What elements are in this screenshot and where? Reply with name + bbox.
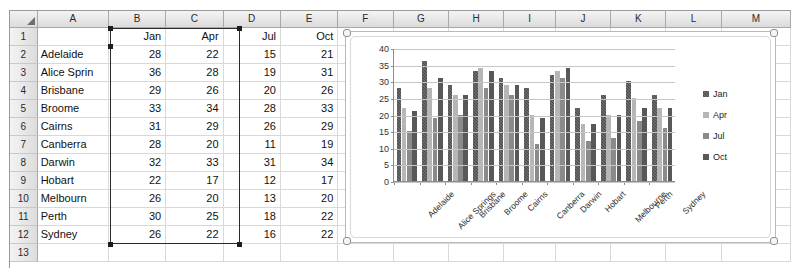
row-header-12[interactable]: 12: [10, 226, 38, 244]
cell-d[interactable]: 11: [224, 136, 281, 154]
chart-bar[interactable]: [427, 88, 432, 181]
embedded-bar-chart[interactable]: 0510152025303540 AdelaideAlice SpringsBr…: [345, 31, 776, 243]
row-header-10[interactable]: 10: [10, 190, 38, 208]
chart-bar[interactable]: [463, 95, 468, 181]
cell-d[interactable]: 15: [224, 46, 281, 64]
cell-d[interactable]: 12: [224, 172, 281, 190]
cell-b[interactable]: 28: [109, 136, 166, 154]
cell-d[interactable]: 18: [224, 208, 281, 226]
chart-handle-bottom-right[interactable]: [770, 237, 778, 245]
cell-a[interactable]: Hobart: [38, 172, 109, 190]
cell-d[interactable]: 19: [224, 64, 281, 82]
cell-d[interactable]: 13: [224, 190, 281, 208]
chart-bar[interactable]: [617, 115, 622, 182]
chart-bar[interactable]: [412, 111, 417, 181]
column-header-k[interactable]: K: [611, 11, 666, 28]
cell-empty[interactable]: [338, 244, 393, 262]
cell-a[interactable]: Brisbane: [38, 82, 109, 100]
column-header-l[interactable]: L: [666, 11, 721, 28]
cell-e[interactable]: 22: [281, 226, 338, 244]
cell-e[interactable]: 19: [281, 136, 338, 154]
cell-a[interactable]: Canberra: [38, 136, 109, 154]
column-header-g[interactable]: G: [394, 11, 449, 28]
cell-e[interactable]: 20: [281, 190, 338, 208]
chart-bar[interactable]: [632, 98, 637, 181]
column-header-f[interactable]: F: [338, 11, 393, 28]
cell-b[interactable]: 28: [109, 46, 166, 64]
chart-bar[interactable]: [642, 108, 647, 181]
cell-d[interactable]: 16: [224, 226, 281, 244]
cell-a[interactable]: Alice Sprin: [38, 64, 109, 82]
select-all-corner[interactable]: [10, 11, 38, 28]
cell-b[interactable]: 26: [109, 226, 166, 244]
cell-c[interactable]: 34: [166, 100, 223, 118]
cell-empty[interactable]: [666, 244, 721, 262]
selection-handle-top-left[interactable]: [108, 26, 113, 31]
column-header-d[interactable]: D: [224, 11, 281, 28]
cell-a[interactable]: Cairns: [38, 118, 109, 136]
column-header-c[interactable]: C: [166, 11, 223, 28]
chart-bar[interactable]: [668, 108, 673, 181]
chart-bar[interactable]: [402, 108, 407, 181]
cell-a[interactable]: Darwin: [38, 154, 109, 172]
row-header-4[interactable]: 4: [10, 82, 38, 100]
row-header-6[interactable]: 6: [10, 118, 38, 136]
cell-a[interactable]: Melbourn: [38, 190, 109, 208]
row-header-9[interactable]: 9: [10, 172, 38, 190]
cell-a[interactable]: Sydney: [38, 226, 109, 244]
cell-b[interactable]: Jan: [109, 28, 166, 46]
cell-b[interactable]: 29: [109, 82, 166, 100]
cell-d[interactable]: [224, 244, 281, 262]
column-header-e[interactable]: E: [281, 11, 338, 28]
cell-empty[interactable]: [449, 244, 504, 262]
cell-b[interactable]: 22: [109, 172, 166, 190]
chart-bar[interactable]: [611, 138, 616, 181]
cell-c[interactable]: Apr: [166, 28, 223, 46]
cell-c[interactable]: 22: [166, 46, 223, 64]
chart-bar[interactable]: [663, 128, 668, 181]
cell-e[interactable]: Oct: [281, 28, 338, 46]
row-header-3[interactable]: 3: [10, 64, 38, 82]
cell-e[interactable]: 29: [281, 118, 338, 136]
chart-bar[interactable]: [422, 61, 427, 181]
chart-bar[interactable]: [530, 115, 535, 182]
cell-b[interactable]: 32: [109, 154, 166, 172]
cell-a[interactable]: [38, 28, 109, 46]
row-header-13[interactable]: 13: [10, 244, 38, 262]
cell-e[interactable]: 31: [281, 64, 338, 82]
row-header-7[interactable]: 7: [10, 136, 38, 154]
cell-empty[interactable]: [504, 244, 555, 262]
cell-b[interactable]: [109, 244, 166, 262]
cell-c[interactable]: 25: [166, 208, 223, 226]
column-header-h[interactable]: H: [449, 11, 504, 28]
cell-e[interactable]: 33: [281, 100, 338, 118]
cell-e[interactable]: 34: [281, 154, 338, 172]
cell-b[interactable]: 36: [109, 64, 166, 82]
chart-bar[interactable]: [535, 144, 540, 181]
cell-empty[interactable]: [556, 244, 611, 262]
chart-legend[interactable]: JanAprJulOct: [703, 83, 769, 167]
cell-b[interactable]: 33: [109, 100, 166, 118]
cell-c[interactable]: [166, 244, 223, 262]
chart-bar[interactable]: [601, 95, 606, 181]
table-row[interactable]: 13: [10, 244, 791, 262]
cell-c[interactable]: 29: [166, 118, 223, 136]
cell-e[interactable]: 26: [281, 82, 338, 100]
cell-empty[interactable]: [611, 244, 666, 262]
chart-bar[interactable]: [397, 88, 402, 181]
chart-bar[interactable]: [652, 95, 657, 181]
cell-c[interactable]: 33: [166, 154, 223, 172]
selection-handle-bottom-left[interactable]: [108, 242, 113, 247]
legend-item[interactable]: Jan: [703, 83, 769, 104]
cell-c[interactable]: 17: [166, 172, 223, 190]
cell-e[interactable]: 21: [281, 46, 338, 64]
chart-bar[interactable]: [458, 115, 463, 182]
row-header-8[interactable]: 8: [10, 154, 38, 172]
cell-c[interactable]: 22: [166, 226, 223, 244]
legend-item[interactable]: Jul: [703, 125, 769, 146]
chart-bar[interactable]: [453, 95, 458, 181]
cell-d[interactable]: 26: [224, 118, 281, 136]
chart-bar[interactable]: [524, 88, 529, 181]
cell-d[interactable]: Jul: [224, 28, 281, 46]
row-header-2[interactable]: 2: [10, 46, 38, 64]
